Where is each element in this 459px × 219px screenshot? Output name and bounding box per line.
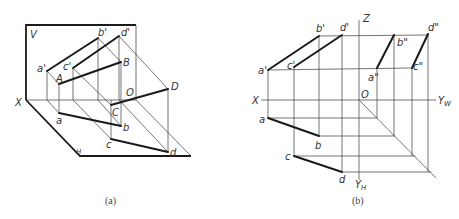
point-b-prime: b': [98, 27, 107, 38]
point-c: c: [106, 139, 112, 150]
point-a-dprime: a": [368, 72, 379, 83]
x-axis-label: X: [251, 95, 260, 106]
point-c-prime: c': [63, 61, 71, 72]
point-a: a: [56, 115, 62, 126]
caption-b: (b): [352, 195, 364, 207]
h-plane-label: H: [76, 148, 82, 156]
point-d-prime: d': [340, 22, 349, 33]
miter-line-45: [359, 100, 436, 178]
point-d: d: [339, 174, 346, 185]
point-C: C: [112, 107, 119, 118]
v-plane-label: V: [30, 29, 38, 40]
origin-label: O: [126, 87, 134, 98]
point-d-dprime: d": [428, 22, 439, 33]
caption-a: (a): [105, 195, 116, 207]
point-b: b: [123, 122, 129, 133]
x-axis-label: X: [14, 97, 23, 108]
point-b-prime: b': [316, 23, 325, 34]
point-a-prime: a': [37, 63, 46, 74]
point-b-dprime: b": [397, 37, 408, 48]
origin-label: O: [361, 89, 369, 100]
figure-a-pictorial: V H X O a' b' c' d' A B C D a b c d (a): [14, 25, 191, 207]
point-a-prime: a': [258, 65, 267, 76]
line-segments: [47, 36, 168, 152]
line-segments: [268, 34, 428, 172]
point-a: a: [259, 114, 265, 125]
figure-b-orthographic: X Z YW YH O a' b' c' d' a" b" c" d" a b …: [251, 13, 452, 207]
point-D: D: [171, 81, 179, 92]
point-c: c: [285, 151, 291, 162]
point-d-prime: d': [121, 27, 130, 38]
yh-axis-label: YH: [355, 179, 367, 192]
point-c-dprime: c": [413, 61, 423, 72]
z-axis-label: Z: [362, 13, 371, 24]
point-A: A: [55, 73, 63, 84]
point-B: B: [123, 57, 130, 68]
yw-axis-label: YW: [438, 95, 452, 108]
projection-diagrams: V H X O a' b' c' d' A B C D a b c d (a): [0, 0, 459, 219]
point-d: d: [170, 147, 177, 158]
point-b: b: [315, 140, 321, 151]
point-c-prime: c': [287, 60, 295, 71]
